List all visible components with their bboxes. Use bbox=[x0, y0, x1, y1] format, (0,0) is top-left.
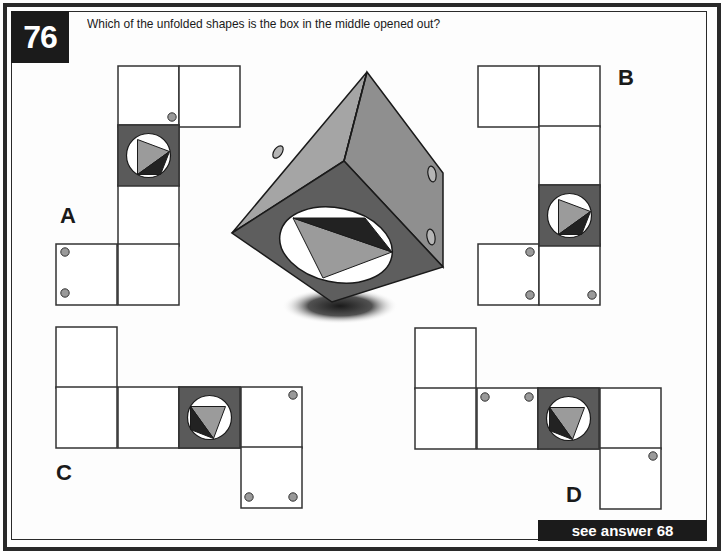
folded-box-3d bbox=[232, 72, 443, 324]
net-face bbox=[56, 327, 117, 388]
net-face bbox=[478, 66, 539, 127]
hole-dot-icon bbox=[526, 248, 534, 256]
window-symbol-icon bbox=[188, 396, 232, 440]
net-face bbox=[539, 66, 600, 127]
hole-dot-icon bbox=[526, 291, 534, 299]
hole-dot-icon bbox=[588, 291, 596, 299]
option-label-c[interactable]: C bbox=[56, 460, 72, 486]
hole-dot-icon bbox=[289, 493, 297, 501]
window-symbol-icon bbox=[127, 134, 171, 178]
option-label-a[interactable]: A bbox=[60, 203, 76, 229]
net-face bbox=[118, 185, 179, 246]
option-label-d[interactable]: D bbox=[566, 482, 582, 508]
net-face bbox=[179, 66, 240, 127]
net-option-a[interactable] bbox=[56, 66, 240, 305]
net-option-c[interactable] bbox=[56, 327, 302, 508]
net-face bbox=[118, 244, 179, 305]
hole-dot-icon bbox=[481, 393, 489, 401]
net-face bbox=[539, 126, 600, 187]
hole-dot-icon bbox=[61, 248, 69, 256]
window-symbol-icon bbox=[548, 194, 592, 238]
hole-dot-icon bbox=[525, 393, 533, 401]
hole-dot-icon bbox=[168, 113, 176, 121]
see-answer-link[interactable]: see answer 68 bbox=[538, 520, 707, 541]
net-face bbox=[56, 387, 117, 448]
hole-dot-icon bbox=[649, 452, 657, 460]
net-option-d[interactable] bbox=[415, 328, 661, 509]
option-label-b[interactable]: B bbox=[618, 65, 634, 91]
hole-dot-icon bbox=[61, 289, 69, 297]
net-face bbox=[415, 388, 476, 449]
net-face bbox=[118, 387, 179, 448]
cube-side-hole-icon bbox=[271, 144, 286, 160]
hole-dot-icon bbox=[289, 391, 297, 399]
hole-dot-icon bbox=[245, 493, 253, 501]
net-face bbox=[415, 328, 476, 389]
puzzle-canvas bbox=[0, 0, 722, 553]
net-option-b[interactable] bbox=[478, 66, 600, 305]
window-symbol-icon bbox=[547, 397, 591, 441]
net-face bbox=[600, 388, 661, 449]
